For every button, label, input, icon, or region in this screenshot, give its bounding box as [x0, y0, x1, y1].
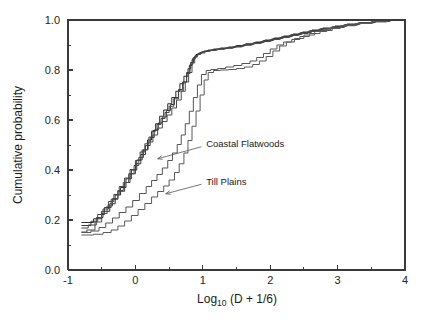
series-line — [81, 20, 394, 233]
annotation-label: Till Plains — [206, 176, 247, 187]
cumulative-probability-chart: -101234 0.00.20.40.60.81.0 Coastal Flatw… — [0, 0, 427, 320]
x-tick-label: 1 — [200, 274, 206, 286]
axes-layer: -101234 0.00.20.40.60.81.0 — [45, 14, 408, 286]
series-line — [81, 20, 394, 226]
series-line — [81, 20, 394, 232]
series-line — [81, 20, 394, 235]
series-layer — [81, 20, 394, 235]
y-tick-label: 0.6 — [45, 114, 60, 126]
y-tick-label: 0.0 — [45, 264, 60, 276]
x-axis-ticks — [68, 265, 405, 270]
x-tick-label: 3 — [335, 274, 341, 286]
y-tick-label: 0.4 — [45, 164, 60, 176]
series-line — [81, 20, 394, 223]
y-axis-tick-labels: 0.00.20.40.60.81.0 — [45, 14, 60, 276]
annotations-layer: Coastal FlatwoodsTill Plains — [158, 138, 285, 194]
x-axis-tick-labels: -101234 — [63, 274, 408, 286]
annotation-arrow — [158, 147, 202, 159]
annotation-arrow — [166, 184, 202, 194]
y-axis-title: Cumulative probability — [11, 86, 25, 204]
x-axis-title: Log10 (D + 1/6) — [197, 292, 277, 308]
figure-root: -101234 0.00.20.40.60.81.0 Coastal Flatw… — [0, 0, 427, 320]
annotation-label: Coastal Flatwoods — [206, 138, 284, 149]
y-tick-label: 0.2 — [45, 214, 60, 226]
x-tick-label: -1 — [63, 274, 73, 286]
y-tick-label: 0.8 — [45, 64, 60, 76]
y-tick-label: 1.0 — [45, 14, 60, 26]
x-tick-label: 4 — [402, 274, 408, 286]
x-tick-label: 0 — [132, 274, 138, 286]
y-axis-ticks — [68, 20, 73, 270]
series-line — [81, 20, 394, 228]
x-tick-label: 2 — [267, 274, 273, 286]
